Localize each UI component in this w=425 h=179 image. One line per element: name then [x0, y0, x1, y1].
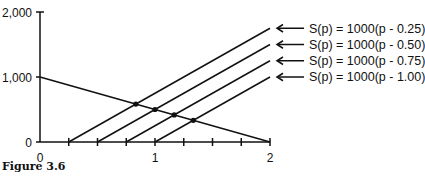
supply-line-075 — [126, 61, 270, 142]
equilibrium-point — [133, 102, 138, 107]
y-tick-label: 1,000 — [2, 71, 32, 85]
x-tick-label: 2 — [267, 151, 274, 165]
equilibrium-point — [191, 118, 196, 123]
equilibrium-point — [152, 107, 157, 112]
y-tick-label: 0 — [25, 136, 32, 150]
supply-demand-chart: 2,000 1,000 0 0 1 2 S(p) = 1000(p - 0.25… — [0, 0, 425, 179]
figure-caption: Figure 3.6 — [2, 160, 65, 173]
supply-line-025 — [69, 28, 270, 142]
supply-line-100 — [155, 77, 270, 142]
legend-label-025: S(p) = 1000(p - 0.25) — [309, 22, 425, 36]
legend-label-075: S(p) = 1000(p - 0.75) — [309, 54, 425, 68]
supply-line-050 — [98, 45, 271, 143]
legend-label-050: S(p) = 1000(p - 0.50) — [309, 38, 425, 52]
legend-label-100: S(p) = 1000(p - 1.00) — [309, 70, 425, 84]
equilibrium-point — [172, 112, 177, 117]
y-tick-label: 2,000 — [2, 6, 32, 20]
x-tick-label: 1 — [152, 151, 159, 165]
